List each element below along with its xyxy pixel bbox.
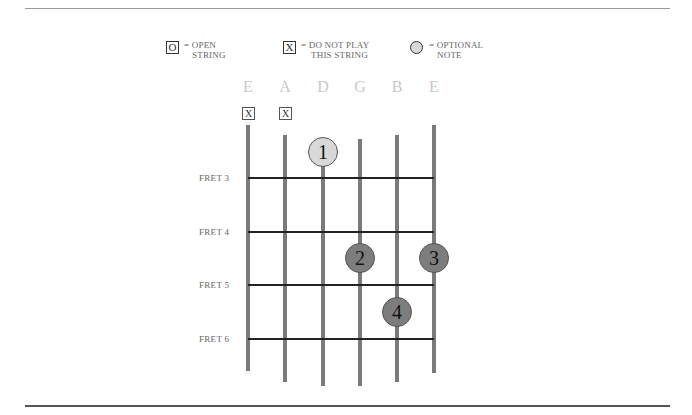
guitar-string-4 <box>395 135 399 382</box>
legend-optional-line1: = OPTIONAL <box>429 40 483 50</box>
finger-position-1: 1 <box>308 137 338 167</box>
legend-optional-line2: NOTE <box>429 50 483 60</box>
legend-open-line2: STRING <box>184 50 226 60</box>
legend-mute-line2: THIS STRING <box>301 50 369 60</box>
finger-position-3: 3 <box>419 243 449 273</box>
mute-marker-icon: X <box>242 107 255 120</box>
legend-mute-string: X = DO NOT PLAY THIS STRING <box>283 40 369 60</box>
string-name-0: E <box>238 78 258 96</box>
mute-string-icon: X <box>283 41 296 54</box>
string-name-1: A <box>275 78 295 96</box>
string-name-5: E <box>424 78 444 96</box>
fret-line <box>248 338 434 340</box>
string-name-2: D <box>313 78 333 96</box>
fret-line <box>248 231 434 233</box>
mute-marker-icon: X <box>279 107 292 120</box>
fret-label: FRET 5 <box>199 280 229 290</box>
legend-optional-note: = OPTIONAL NOTE <box>410 40 483 60</box>
string-name-3: G <box>350 78 370 96</box>
open-string-icon: O <box>166 41 179 54</box>
legend-open-string: O = OPEN STRING <box>166 40 226 60</box>
guitar-string-2 <box>321 150 325 386</box>
legend-mute-line1: = DO NOT PLAY <box>301 40 369 50</box>
bottom-rule <box>25 405 670 407</box>
legend-open-line1: = OPEN <box>184 40 226 50</box>
optional-note-icon <box>410 41 423 54</box>
guitar-string-1 <box>283 135 287 382</box>
fret-label: FRET 4 <box>199 227 229 237</box>
fret-label: FRET 3 <box>199 173 229 183</box>
string-name-4: B <box>387 78 407 96</box>
fret-line <box>248 177 434 179</box>
top-rule <box>25 8 670 9</box>
finger-position-2: 2 <box>345 243 375 273</box>
guitar-string-0 <box>246 125 250 371</box>
fret-line <box>248 284 434 286</box>
fret-label: FRET 6 <box>199 334 229 344</box>
finger-position-4: 4 <box>382 297 412 327</box>
